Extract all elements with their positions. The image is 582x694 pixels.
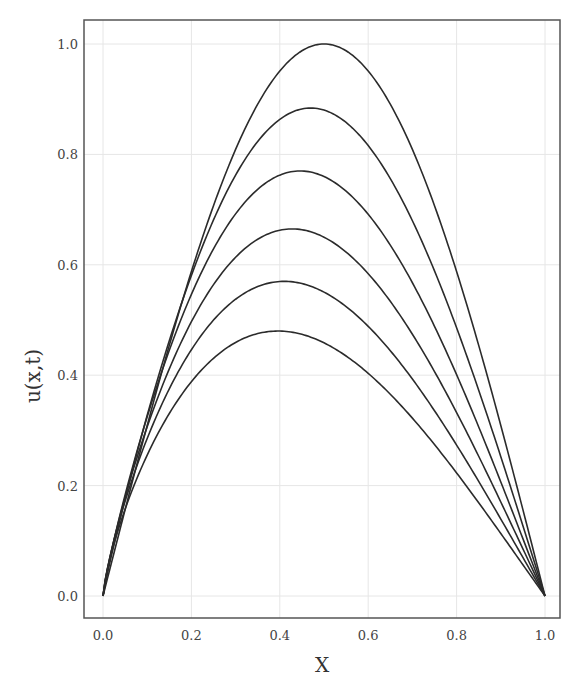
y-tick-label: 0.4 xyxy=(57,368,78,383)
y-tick-label: 0.6 xyxy=(57,258,78,273)
y-tick-label: 1.0 xyxy=(57,37,78,52)
y-tick-label: 0.8 xyxy=(57,147,78,162)
y-axis-ticks: 0.00.20.40.60.81.0 xyxy=(57,37,78,604)
line-chart: 0.00.20.40.60.81.0 0.00.20.40.60.81.0 X … xyxy=(0,0,582,694)
x-axis-ticks: 0.00.20.40.60.81.0 xyxy=(93,628,556,643)
x-tick-label: 0.2 xyxy=(181,628,202,643)
x-tick-label: 0.6 xyxy=(358,628,379,643)
curves xyxy=(103,44,545,596)
solution-curve xyxy=(103,44,545,596)
solution-curve xyxy=(103,281,545,596)
x-tick-label: 1.0 xyxy=(535,628,556,643)
x-axis-label: X xyxy=(315,653,330,677)
x-tick-label: 0.8 xyxy=(446,628,467,643)
y-tick-label: 0.0 xyxy=(57,589,78,604)
x-tick-label: 0.0 xyxy=(93,628,114,643)
y-axis-label: u(x,t) xyxy=(21,349,45,403)
solution-curve xyxy=(103,171,545,596)
x-tick-label: 0.4 xyxy=(269,628,290,643)
y-tick-label: 0.2 xyxy=(57,479,78,494)
